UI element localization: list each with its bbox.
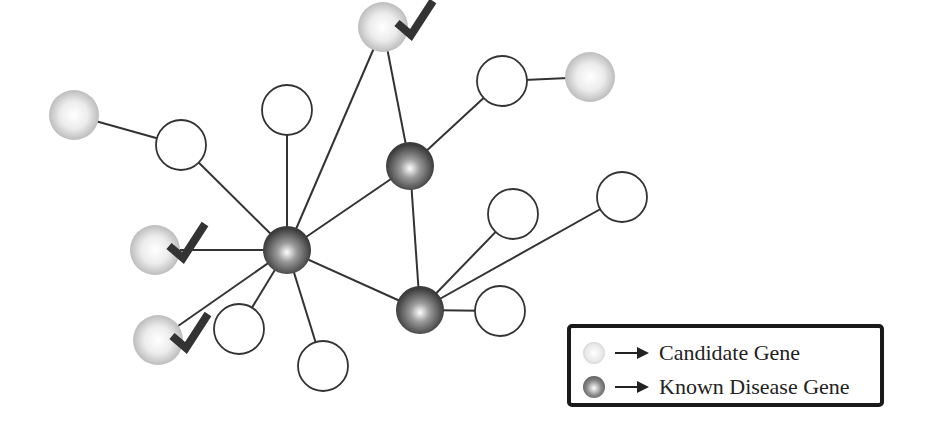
candidate-gene-node (49, 90, 99, 140)
gene-node (298, 341, 348, 391)
legend-item-candidate: Candidate Gene (583, 338, 800, 368)
legend-item-known: Known Disease Gene (583, 372, 850, 402)
known-disease-gene-node (263, 226, 311, 274)
legend-label-known: Known Disease Gene (659, 374, 850, 400)
gene-node (262, 85, 312, 135)
network-nodes (49, 2, 647, 391)
known-disease-gene-node (396, 286, 444, 334)
known-disease-gene-swatch-icon (583, 376, 605, 398)
candidate-gene-node (565, 52, 615, 102)
legend: Candidate Gene Known Disease Gene (567, 324, 884, 407)
gene-node (214, 304, 264, 354)
known-disease-gene-node (386, 142, 434, 190)
arrow-right-icon (615, 347, 649, 359)
gene-node (156, 120, 206, 170)
gene-node (477, 56, 527, 106)
arrow-right-icon (615, 381, 649, 393)
candidate-gene-swatch-icon (583, 342, 605, 364)
gene-node (475, 286, 525, 336)
gene-node (597, 172, 647, 222)
gene-node (488, 189, 538, 239)
legend-label-candidate: Candidate Gene (659, 340, 800, 366)
